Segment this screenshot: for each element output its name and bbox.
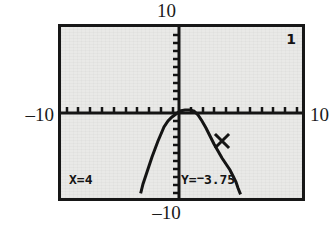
trace-y-label: Y= [181, 172, 197, 187]
function-number-indicator: 1 [286, 32, 296, 46]
trace-y-negative-sign: − [197, 171, 204, 185]
trace-x-label: X= [69, 172, 85, 187]
y-min-label: –10 [0, 203, 333, 222]
y-max-label: 10 [0, 1, 333, 20]
trace-x-readout: X=4 [69, 173, 92, 186]
x-max-label: 10 [310, 105, 329, 124]
x-min-label: –10 [6, 105, 54, 124]
calculator-screenshot: 10 –10 10 –10 [0, 0, 333, 229]
trace-y-readout: Y=−3.75 [181, 173, 235, 187]
trace-x-value: 4 [85, 172, 93, 187]
lcd-screen[interactable]: 1 X=4 Y=−3.75 [58, 24, 305, 201]
trace-y-value: 3.75 [204, 172, 235, 187]
trace-cursor-icon [216, 135, 228, 147]
lcd-inner-area: 1 X=4 Y=−3.75 [61, 27, 302, 198]
